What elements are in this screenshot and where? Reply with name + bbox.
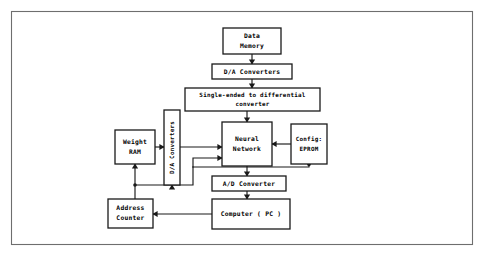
node-weight-ram-line2: RAM [129, 148, 141, 155]
node-neural-network-line2: Network [233, 145, 261, 152]
node-address-counter-line1: Address [116, 204, 144, 211]
node-config-eprom-line2: EPROM [300, 146, 319, 152]
node-ad-converter-label: A/D Converter [223, 180, 276, 187]
node-ad-converter[interactable]: A/D Converter [212, 176, 286, 191]
node-single-ended-converter-line2: converter [235, 101, 269, 107]
node-config-eprom[interactable]: Config: EPROM [291, 124, 327, 164]
node-neural-network-line1: Neural [235, 135, 259, 142]
node-computer-pc[interactable]: Computer ( PC ) [212, 199, 290, 229]
node-da-converters-top-label: D/A Converters [224, 68, 281, 75]
node-config-eprom-line1: Config: [296, 136, 323, 143]
node-neural-network[interactable]: Neural Network [222, 122, 272, 166]
node-address-counter[interactable]: Address Counter [108, 199, 153, 228]
node-da-converters-vertical[interactable]: D/A Converters [164, 110, 180, 185]
node-address-counter-line2: Counter [116, 214, 144, 221]
node-weight-ram-line1: Weight [123, 138, 147, 146]
node-da-converters-top[interactable]: D/A Converters [212, 64, 292, 79]
node-da-converters-vertical-label: D/A Converters [169, 121, 175, 174]
block-diagram-canvas: Data Memory D/A Converters Single-ended … [0, 0, 484, 261]
node-data-memory[interactable]: Data Memory [223, 28, 281, 54]
diagram-page: Data Memory D/A Converters Single-ended … [0, 0, 484, 261]
node-single-ended-converter[interactable]: Single-ended to differential converter [185, 88, 320, 111]
node-data-memory-line1: Data [244, 32, 260, 39]
node-data-memory-line2: Memory [240, 42, 264, 50]
node-weight-ram[interactable]: Weight RAM [115, 130, 155, 164]
node-computer-pc-label: Computer ( PC ) [221, 210, 282, 218]
node-single-ended-converter-line1: Single-ended to differential [199, 92, 306, 99]
